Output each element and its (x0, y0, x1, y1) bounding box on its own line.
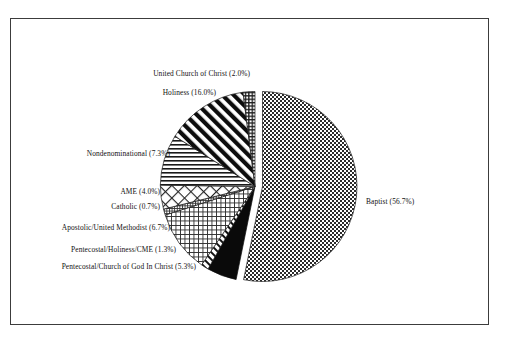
pie-label-pentecostal-church-of-god-in-christ: Pentecostal/Church of God In Christ (5.3… (14, 263, 196, 270)
pie-label-pentecostal-holiness-cme: Pentecostal/Holiness/CME (1.3%) (28, 246, 176, 253)
pie-label-baptist: Baptist (56.7%) (366, 198, 414, 205)
pie-label-united-church-of-christ: United Church of Christ (2.0%) (118, 70, 250, 77)
pie-label-ame: AME (4.0%) (90, 188, 160, 195)
pie-slice-baptist (244, 92, 357, 282)
pie-chart-figure: United Church of Christ (2.0%) Holiness … (0, 0, 510, 345)
pie-chart-plot (0, 0, 510, 345)
pie-label-holiness: Holiness (16.0%) (110, 89, 216, 96)
pie-label-nondenominational: Nondenominational (7.3%) (48, 150, 170, 157)
pie-label-apostolic-united-methodist: Apostolic/United Methodist (6.7%) (30, 224, 170, 231)
pie-label-catholic: Catholic (0.7%) (68, 203, 160, 210)
